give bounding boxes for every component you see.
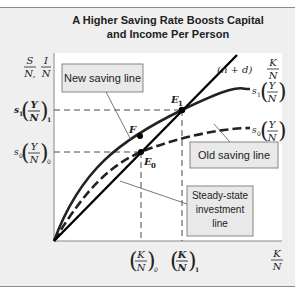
y-tick-low: s 0 ( Y N ) 0: [14, 140, 51, 165]
svg-text:Y: Y: [30, 99, 38, 110]
callout-new-saving: New saving line: [62, 64, 143, 92]
svg-text:K: K: [268, 57, 277, 68]
svg-text:1: 1: [178, 99, 183, 108]
figure-title-line2: and Income Per Person: [107, 28, 230, 40]
svg-text:(: (: [21, 140, 30, 165]
svg-text:N: N: [272, 261, 283, 272]
svg-text:): ): [278, 79, 287, 104]
svg-text:N: N: [267, 93, 278, 104]
svg-text:investment: investment: [196, 204, 245, 215]
svg-text:I: I: [43, 55, 49, 66]
y-tick-high: s 1 ( Y N ) 1: [14, 98, 51, 123]
svg-text:New saving line: New saving line: [64, 72, 141, 84]
svg-text:line: line: [212, 218, 228, 229]
callout-old-saving: Old saving line: [190, 142, 278, 168]
callout-steady-state: Steady-state investment line: [187, 186, 253, 236]
svg-text:K: K: [136, 249, 145, 260]
svg-text:0: 0: [151, 161, 156, 170]
svg-text:N: N: [41, 68, 52, 79]
x-axis-label: K N: [271, 248, 283, 272]
svg-text:Steady-state: Steady-state: [192, 190, 249, 201]
svg-text:0: 0: [47, 158, 51, 165]
svg-text:Y: Y: [31, 141, 39, 152]
svg-text:N: N: [176, 262, 187, 273]
label-f: F: [128, 124, 137, 135]
svg-text:K: K: [177, 249, 188, 260]
svg-text:1: 1: [195, 266, 199, 273]
svg-text:(n + d): (n + d): [217, 64, 252, 75]
svg-text:S: S: [27, 55, 34, 66]
svg-text:K: K: [272, 248, 281, 259]
y-axis-label: S N, I N: [23, 55, 51, 79]
svg-text:N,: N,: [23, 68, 35, 79]
svg-text:Old saving line: Old saving line: [198, 149, 270, 161]
svg-text:N: N: [28, 112, 39, 123]
svg-text:N: N: [29, 154, 40, 165]
x-tick-k1: ( K N ) 1: [170, 248, 199, 273]
svg-text:1: 1: [47, 116, 51, 123]
svg-text:(: (: [21, 98, 30, 123]
saving-rate-diagram: A Higher Saving Rate Boosts Capital and …: [0, 0, 305, 292]
svg-text:N: N: [267, 132, 278, 143]
point-e0: [138, 149, 144, 155]
svg-text:F: F: [128, 124, 137, 135]
svg-text:N: N: [136, 262, 147, 273]
figure-title-line1: A Higher Saving Rate Boosts Capital: [72, 14, 264, 26]
svg-text:0: 0: [154, 266, 158, 273]
svg-text:): ): [278, 118, 287, 143]
point-f: [137, 133, 143, 139]
x-tick-k0: ( K N ) 0: [129, 248, 158, 273]
